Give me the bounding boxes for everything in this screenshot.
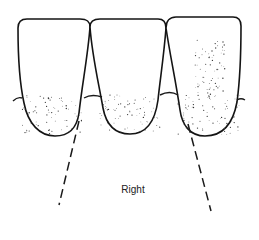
stipple-dot: [153, 131, 154, 132]
stipple-dot: [143, 117, 144, 118]
stipple-dot: [61, 98, 62, 99]
stipple-dot: [203, 110, 204, 111]
stipple-dot: [221, 65, 222, 66]
dashed-guide-line-right: [188, 124, 211, 211]
stipple-dot: [197, 127, 198, 128]
stipple-dot: [129, 103, 130, 104]
stipple-dot: [46, 106, 47, 107]
stipple-dot: [22, 125, 23, 126]
stipple-dot: [227, 108, 228, 109]
stipple-dot: [118, 104, 119, 105]
stipple-dot: [202, 128, 203, 129]
stipple-dot: [140, 108, 141, 109]
stipple-dot: [225, 103, 226, 104]
stipple-dot: [59, 98, 60, 99]
stipple-dot: [145, 130, 146, 131]
stipple-dot: [29, 112, 30, 113]
stipple-dot: [224, 118, 225, 119]
stipple-dot: [124, 106, 125, 107]
stipple-dot: [202, 105, 203, 106]
stipple-dot: [209, 120, 210, 121]
stipple-dot: [115, 110, 116, 111]
stipple-dot: [137, 115, 138, 116]
stipple-dot: [103, 104, 104, 105]
stipple-dot: [179, 102, 180, 103]
stipple-dot: [233, 117, 234, 118]
stipple-dot: [199, 121, 200, 122]
stipple-dot: [55, 121, 56, 122]
stipple-dot: [183, 115, 184, 116]
stipple-dot: [219, 123, 220, 124]
stipple-dot: [216, 86, 217, 87]
stipple-dot: [79, 108, 80, 109]
stipple-dot: [232, 121, 233, 122]
stipple-dot: [184, 124, 185, 125]
stipple-dot: [209, 89, 210, 90]
stipple-dot: [187, 109, 188, 110]
stipple-dot: [210, 94, 211, 95]
stipple-dot: [142, 124, 143, 125]
stipple-dot: [53, 107, 54, 108]
stipple-dot: [118, 118, 119, 119]
stipple-dot: [29, 130, 30, 131]
stipple-dot: [215, 95, 216, 96]
stipple-dot: [197, 95, 198, 96]
stipple-dot: [134, 129, 135, 130]
stipple-dot: [203, 82, 204, 83]
stipple-dot: [120, 116, 121, 117]
stipple-dot: [146, 121, 147, 122]
stipple-dot: [100, 118, 101, 119]
stipple-dot: [185, 107, 186, 108]
stipple-dot: [36, 112, 37, 113]
stipple-dot: [214, 71, 215, 72]
stipple-dot: [234, 116, 235, 117]
stipple-dot: [144, 114, 145, 115]
stipple-dot: [178, 103, 179, 104]
stipple-dot: [189, 97, 190, 98]
stipple-dot: [46, 114, 47, 115]
stipple-dot: [197, 83, 198, 84]
stipple-dot: [55, 114, 56, 115]
stipple-dot: [51, 131, 52, 132]
stipple-dot: [235, 99, 236, 100]
stipple-dot: [54, 108, 55, 109]
stipple-dot: [212, 106, 213, 107]
stipple-dot: [212, 57, 213, 58]
stipple-dot: [68, 109, 69, 110]
stipple-dot: [205, 64, 206, 65]
stipple-dot: [236, 106, 237, 107]
stipple-dot: [224, 50, 225, 51]
stipple-dot: [65, 120, 66, 121]
stipple-dot: [195, 87, 196, 88]
stipple-dot: [217, 121, 218, 122]
stipple-dot: [202, 81, 203, 82]
stipple-dot: [134, 103, 135, 104]
stipple-dot: [141, 122, 142, 123]
stipple-dot: [210, 87, 211, 88]
stipple-dot: [230, 133, 231, 134]
stipple-dot: [188, 122, 189, 123]
stipple-dot: [240, 95, 241, 96]
stipple-dot: [210, 99, 211, 100]
stipple-dot: [151, 111, 152, 112]
stipple-dot: [129, 111, 130, 112]
stipple-dot: [207, 89, 208, 90]
stipple-dot: [225, 109, 226, 110]
stipple-dot: [202, 77, 203, 78]
stipple-dot: [224, 68, 225, 69]
stipple-dot: [217, 41, 218, 42]
stipple-dot: [76, 116, 77, 117]
stipple-dot: [25, 109, 26, 110]
stipple-dot: [145, 97, 146, 98]
stipple-dot: [215, 83, 216, 84]
stipple-dot: [193, 107, 194, 108]
stipple-dot: [66, 105, 67, 106]
stipple-dot: [33, 111, 34, 112]
stipple-dot: [178, 134, 179, 135]
stipple-dot: [127, 114, 128, 115]
stipple-dot: [79, 131, 80, 132]
stipple-dot: [208, 97, 209, 98]
stipple-dot: [106, 107, 107, 108]
stipple-dot: [212, 78, 213, 79]
stipple-dot: [217, 45, 218, 46]
